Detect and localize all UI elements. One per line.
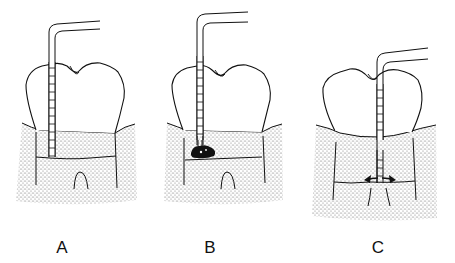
panel-label-a: A	[47, 238, 77, 258]
panel-label-c: C	[363, 238, 393, 258]
panel-c	[312, 48, 437, 221]
panel-label-b: B	[195, 238, 225, 258]
panel-a	[16, 21, 137, 204]
periodontal-probing-diagram	[0, 0, 455, 263]
tooth-crown-b	[172, 65, 270, 132]
gingiva-a	[16, 123, 137, 204]
tooth-crown-c	[323, 69, 422, 132]
panel-b	[164, 12, 283, 204]
gingiva-b	[164, 123, 283, 204]
gingiva-c	[312, 125, 437, 221]
